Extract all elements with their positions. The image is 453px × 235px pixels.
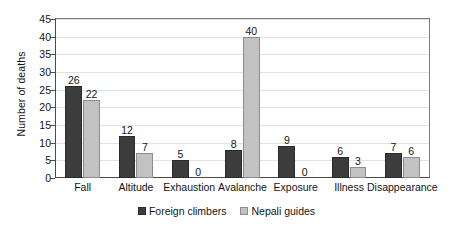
x-tick-label: Illness [334,181,364,193]
y-tick-mark [50,72,55,73]
bar-value-label: 22 [86,88,98,100]
bars-layer: 262212750840906376 [56,19,429,178]
bar[interactable]: 6 [403,157,420,178]
bar-value-label: 9 [284,134,290,146]
x-tick-label: Exposure [274,181,318,193]
bar[interactable]: 3 [350,167,367,178]
bar-chart: Number of deaths 051015202530354045 2622… [0,0,453,235]
bar-value-label: 12 [121,124,133,136]
y-tick-mark [50,54,55,55]
bar[interactable]: 5 [172,160,189,178]
bar-value-label: 6 [408,145,414,157]
bar[interactable]: 22 [83,100,100,178]
legend-swatch-icon [240,207,248,215]
legend-label: Nepali guides [251,205,315,217]
bar-value-label: 6 [337,145,343,157]
y-tick-label: 10 [11,137,51,149]
y-tick-label: 35 [11,48,51,60]
bar-value-label: 0 [302,166,308,178]
y-tick-label: 40 [11,31,51,43]
y-tick-label: 30 [11,66,51,78]
y-tick-mark [50,143,55,144]
bar-value-label: 0 [195,166,201,178]
legend-item[interactable]: Foreign climbers [138,205,227,217]
x-tick-label: Altitude [118,181,153,193]
bar-group: 127 [109,19,162,178]
bar[interactable]: 40 [243,37,260,178]
bar[interactable]: 12 [119,136,136,178]
x-axis-labels: FallAltitudeExhaustionAvalancheExposureI… [56,181,429,197]
bar[interactable]: 7 [136,153,153,178]
y-tick-mark [50,37,55,38]
bar-value-label: 3 [355,155,361,167]
bar-value-label: 7 [142,141,148,153]
y-tick-label: 25 [11,84,51,96]
legend-swatch-icon [138,207,146,215]
bar[interactable]: 9 [278,146,295,178]
y-tick-label: 0 [11,172,51,184]
bar-value-label: 8 [231,138,237,150]
bar[interactable]: 8 [225,150,242,178]
bar-group: 63 [322,19,375,178]
bar-value-label: 26 [68,74,80,86]
y-tick-mark [50,125,55,126]
bar-group: 76 [376,19,429,178]
legend-label: Foreign climbers [149,205,227,217]
bar[interactable]: 26 [65,86,82,178]
bar-group: 50 [163,19,216,178]
x-tick-label: Fall [74,181,91,193]
bar-group: 2622 [56,19,109,178]
x-tick-label: Avalanche [218,181,267,193]
y-tick-mark [50,107,55,108]
x-tick-label: Disappearance [367,181,438,193]
y-tick-mark [50,178,55,179]
y-tick-mark [50,90,55,91]
chart-legend: Foreign climbersNepali guides [0,205,453,217]
bar[interactable]: 6 [332,157,349,178]
y-tick-mark [50,160,55,161]
y-tick-label: 15 [11,119,51,131]
bar-value-label: 7 [391,141,397,153]
legend-item[interactable]: Nepali guides [240,205,315,217]
bar-value-label: 40 [246,25,258,37]
y-tick-label: 20 [11,101,51,113]
bar-group: 840 [216,19,269,178]
x-tick-label: Exhaustion [163,181,215,193]
y-tick-mark [50,19,55,20]
bar-value-label: 5 [177,148,183,160]
bar[interactable]: 7 [385,153,402,178]
bar-group: 90 [269,19,322,178]
y-tick-label: 45 [11,13,51,25]
y-tick-label: 5 [11,154,51,166]
